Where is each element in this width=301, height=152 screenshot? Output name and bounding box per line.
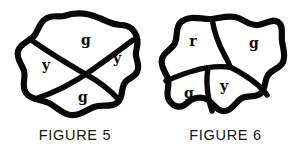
- figure-5-block: g y y g FIGURE 5: [0, 0, 150, 152]
- figure-5-region-label-top: g: [81, 32, 91, 48]
- figure-5-region-label-bottom: g: [78, 89, 88, 105]
- figure-5-region-label-right: y: [112, 50, 122, 66]
- figure-6-block: r g g y FIGURE 6: [150, 0, 301, 152]
- figure-6-region-label-bottom-middle: y: [219, 78, 229, 94]
- figures-container: g y y g FIGURE 5 r g g y FIGURE 6: [0, 0, 301, 152]
- figure-6-region-label-top-right: g: [249, 35, 259, 51]
- figure-5-caption: FIGURE 5: [0, 126, 150, 144]
- figure-6-region-label-top-left: r: [189, 33, 197, 49]
- figure-6-region-label-bottom-left: g: [184, 85, 194, 101]
- figure-5-region-label-left: y: [41, 57, 51, 73]
- figure-6-caption: FIGURE 6: [150, 126, 301, 144]
- figure-5-diagram: g y y g: [0, 0, 150, 126]
- figure-6-diagram: r g g y: [150, 0, 301, 126]
